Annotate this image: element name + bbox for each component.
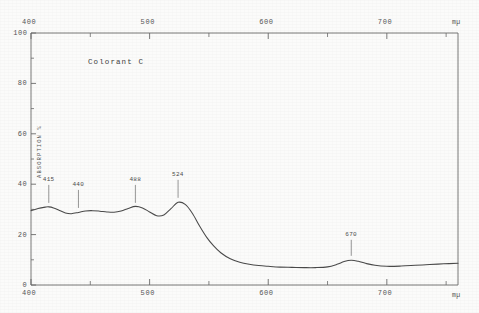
bottom-tick-labels-item: 500 [141, 289, 155, 297]
top-tick-labels-item: 400 [22, 18, 36, 26]
y-tick-label: 0 [22, 281, 27, 289]
y-tick-label: 80 [18, 79, 28, 87]
bottom-tick-labels-item: 700 [378, 289, 392, 297]
bottom-tick-labels-item: 400 [22, 289, 36, 297]
spectrum-plot [0, 0, 479, 313]
peak-label: 415 [43, 176, 55, 183]
spectrum-figure: Colorant C ABSORPTION % mµ mµ 4005006007… [0, 0, 479, 313]
top-axis-unit-label: mµ [452, 19, 460, 26]
bottom-axis-ticks [31, 279, 446, 285]
annotation-leader-lines [49, 180, 351, 256]
top-tick-labels-item: 600 [259, 18, 273, 26]
y-tick-label: 60 [18, 130, 28, 138]
bottom-axis-unit-label: mµ [452, 292, 460, 299]
top-tick-labels-item: 500 [141, 18, 155, 26]
y-axis-title: ABSORPTION % [36, 125, 43, 178]
peak-label: 524 [172, 171, 184, 178]
top-axis-ticks [31, 33, 446, 39]
axis-lines [31, 33, 458, 285]
y-tick-label: 40 [18, 180, 28, 188]
peak-label: 670 [345, 231, 357, 238]
bottom-tick-labels-item: 600 [259, 289, 273, 297]
y-tick-label: 20 [18, 231, 28, 239]
peak-label: 488 [129, 176, 141, 183]
y-tick-label: 100 [13, 29, 27, 37]
chart-title: Colorant C [88, 58, 144, 66]
top-tick-labels-item: 700 [378, 18, 392, 26]
peak-label: 440 [72, 181, 84, 188]
absorption-curve [31, 202, 458, 268]
